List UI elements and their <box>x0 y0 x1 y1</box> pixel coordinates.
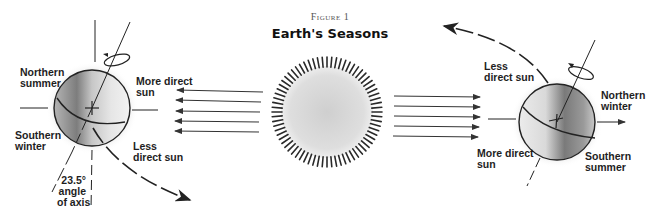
label-right-less-direct-sun: Less direct sun <box>484 61 534 83</box>
label-left-less-direct-sun: Less direct sun <box>133 141 183 163</box>
label-northern-winter: Northern winter <box>601 90 645 112</box>
figure-title: Earth's Seasons <box>240 26 420 41</box>
earth-northern-summer <box>20 20 190 210</box>
figure-number: Figure 1 <box>260 11 400 22</box>
label-southern-summer: Southern summer <box>585 151 631 173</box>
label-axis-angle: 23.5° angle of axis <box>57 175 86 208</box>
label-southern-winter: Southern winter <box>15 130 61 152</box>
label-left-more-direct-sun: More direct sun <box>136 76 193 98</box>
label-right-more-direct-sun: More direct sun <box>477 148 534 170</box>
label-northern-summer: Northern summer <box>20 67 64 89</box>
sunlight-arrows-right <box>393 96 480 137</box>
sun <box>272 57 382 167</box>
